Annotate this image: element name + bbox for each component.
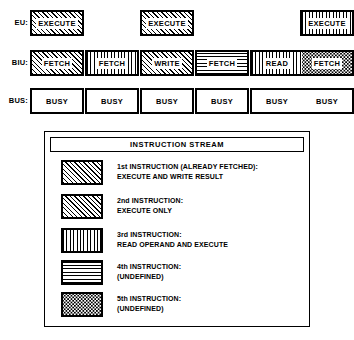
biu-block-fetch-2: FETCH [85, 50, 139, 76]
legend-text-5: 5th INSTRUCTION: (UNDEFINED) [117, 294, 307, 313]
bus-slot-4: BUSY [250, 88, 304, 114]
biu-slot-5: FETCH [300, 50, 354, 76]
biu-block-fetch-4: FETCH [300, 50, 354, 76]
eu-block-label-0: EXECUTE [36, 18, 78, 29]
hatch-dotted-icon [63, 294, 101, 315]
hatch-horizontal-icon [63, 262, 101, 283]
legend-line1-2: 2nd INSTRUCTION: [117, 197, 183, 204]
biu-slot-3: FETCH [195, 50, 249, 76]
biu-block-label-2: WRITE [152, 58, 182, 69]
legend-swatch-2 [61, 194, 103, 219]
legend-entry-3: 3rd INSTRUCTION: READ OPERAND AND EXECUT… [61, 228, 301, 258]
timing-row-biu: BIU: FETCH FETCH WRITE FETCH [0, 50, 354, 80]
bus-block-label-5: BUSY [314, 96, 340, 107]
bus-block-label-3: BUSY [209, 96, 235, 107]
legend-text-1: 1st INSTRUCTION (ALREADY FETCHED): EXECU… [117, 162, 307, 181]
hatch-vertical-icon [63, 230, 101, 251]
bus-block-label-4: BUSY [264, 96, 290, 107]
biu-block-fetch-3: FETCH [195, 50, 249, 76]
bus-block-busy-5: BUSY [250, 88, 304, 114]
biu-block-write: WRITE [140, 50, 194, 76]
legend-entry-4: 4th INSTRUCTION: (UNDEFINED) [61, 260, 301, 290]
legend-entry-1: 1st INSTRUCTION (ALREADY FETCHED): EXECU… [61, 160, 301, 190]
bus-block-busy-1: BUSY [30, 88, 84, 114]
eu-slot-2: EXECUTE [140, 10, 194, 36]
biu-slot-4: READ [250, 50, 304, 76]
bus-slot-5: BUSY [300, 88, 354, 114]
legend-line2-4: (UNDEFINED) [117, 272, 307, 282]
eu-block-execute-3: EXECUTE [300, 10, 354, 36]
hatch-diagonal-icon [63, 162, 101, 183]
timing-row-bus: BUS: BUSY BUSY BUSY BUSY [0, 88, 354, 118]
bus-block-busy-2: BUSY [85, 88, 139, 114]
bus-slot-1: BUSY [85, 88, 139, 114]
legend-title-band: INSTRUCTION STREAM [50, 137, 304, 152]
instruction-stream-legend: INSTRUCTION STREAM 1st INSTRUCTION (ALRE… [44, 131, 310, 327]
biu-block-label-1: FETCH [97, 58, 128, 69]
biu-block-label-5: FETCH [312, 58, 343, 69]
eu-slot-5: EXECUTE [300, 10, 354, 36]
bus-slot-0: BUSY [30, 88, 84, 114]
timing-diagram: EU: EXECUTE EXECUTE EXECUTE BIU: [0, 0, 354, 124]
biu-slot-1: FETCH [85, 50, 139, 76]
legend-swatch-1 [61, 160, 103, 185]
biu-slot-0: FETCH [30, 50, 84, 76]
biu-block-label-3: FETCH [207, 58, 238, 69]
legend-entry-5: 5th INSTRUCTION: (UNDEFINED) [61, 292, 301, 322]
bus-block-busy-4: BUSY [195, 88, 249, 114]
legend-line2-3: READ OPERAND AND EXECUTE [117, 240, 307, 250]
bus-block-busy-6: BUSY [300, 88, 354, 114]
legend-text-3: 3rd INSTRUCTION: READ OPERAND AND EXECUT… [117, 230, 307, 249]
legend-swatch-5 [61, 292, 103, 317]
legend-line1-3: 3rd INSTRUCTION: [117, 231, 182, 238]
biu-block-label-0: FETCH [42, 58, 73, 69]
biu-block-fetch-1: FETCH [30, 50, 84, 76]
row-label-eu: EU: [0, 10, 28, 36]
row-label-biu: BIU: [0, 50, 28, 76]
legend-swatch-3 [61, 228, 103, 253]
legend-line1-1: 1st INSTRUCTION (ALREADY FETCHED): [117, 163, 258, 170]
bus-block-busy-3: BUSY [140, 88, 194, 114]
eu-block-label-5: EXECUTE [306, 18, 348, 29]
legend-line2-5: (UNDEFINED) [117, 304, 307, 314]
biu-block-read: READ [250, 50, 304, 76]
legend-text-4: 4th INSTRUCTION: (UNDEFINED) [117, 262, 307, 281]
biu-slot-2: WRITE [140, 50, 194, 76]
eu-block-execute-2: EXECUTE [140, 10, 194, 36]
biu-block-label-4: READ [264, 58, 290, 69]
legend-line1-5: 5th INSTRUCTION: [117, 295, 181, 302]
legend-text-2: 2nd INSTRUCTION: EXECUTE ONLY [117, 196, 307, 215]
bus-block-label-1: BUSY [99, 96, 125, 107]
legend-line2-1: EXECUTE AND WRITE RESULT [117, 172, 307, 182]
hatch-diagonal-icon [63, 196, 101, 217]
bus-block-label-2: BUSY [154, 96, 180, 107]
eu-slot-0: EXECUTE [30, 10, 84, 36]
eu-block-label-2: EXECUTE [146, 18, 188, 29]
legend-line2-2: EXECUTE ONLY [117, 206, 307, 216]
bus-slot-3: BUSY [195, 88, 249, 114]
legend-swatch-4 [61, 260, 103, 285]
bus-block-label-0: BUSY [44, 96, 70, 107]
bus-slot-2: BUSY [140, 88, 194, 114]
eu-block-execute-1: EXECUTE [30, 10, 84, 36]
legend-entry-2: 2nd INSTRUCTION: EXECUTE ONLY [61, 194, 301, 224]
timing-row-eu: EU: EXECUTE EXECUTE EXECUTE [0, 10, 354, 40]
legend-title: INSTRUCTION STREAM [130, 140, 224, 149]
row-label-bus: BUS: [0, 88, 28, 114]
legend-line1-4: 4th INSTRUCTION: [117, 263, 181, 270]
